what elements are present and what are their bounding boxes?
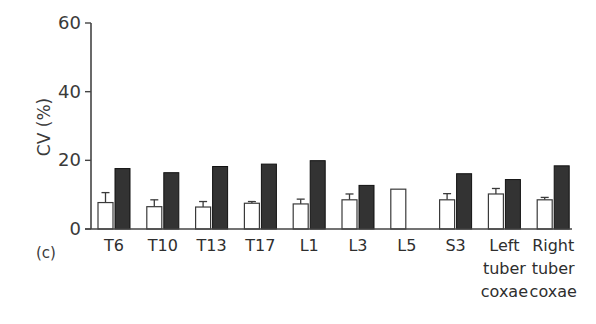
category-label: T10 bbox=[147, 236, 178, 255]
bar-chart: 0204060 T6T10T13T17L1L3L5S3Lefttubercoxa… bbox=[0, 0, 596, 324]
panel-label: (c) bbox=[36, 244, 56, 262]
open-bar bbox=[342, 200, 357, 229]
filled-bar bbox=[457, 174, 472, 229]
category-label: L1 bbox=[300, 236, 319, 255]
open-bar bbox=[391, 189, 406, 229]
category-label: Right bbox=[532, 236, 574, 255]
bar-group bbox=[147, 173, 179, 229]
bar-group bbox=[440, 174, 472, 229]
category-label: S3 bbox=[445, 236, 465, 255]
category-label: T13 bbox=[196, 236, 227, 255]
bar-group bbox=[391, 189, 406, 229]
open-bar bbox=[293, 204, 308, 229]
category-label: coxae bbox=[530, 282, 577, 301]
bar-group bbox=[196, 167, 228, 229]
x-axis: T6T10T13T17L1L3L5S3LefttubercoxaeRighttu… bbox=[85, 229, 577, 301]
filled-bar bbox=[164, 173, 179, 229]
y-tick-label: 40 bbox=[58, 81, 81, 102]
bar-group bbox=[488, 180, 520, 229]
open-bar bbox=[147, 207, 162, 229]
category-label: tuber bbox=[532, 259, 575, 278]
filled-bar bbox=[115, 169, 130, 229]
bar-group bbox=[244, 164, 276, 229]
y-tick-label: 0 bbox=[70, 218, 81, 239]
filled-bar bbox=[554, 166, 569, 229]
filled-bar bbox=[359, 185, 374, 229]
y-tick-label: 60 bbox=[58, 12, 81, 33]
bar-groups bbox=[98, 161, 569, 229]
y-axis: 0204060 bbox=[58, 12, 91, 239]
y-axis-label: CV (%) bbox=[34, 98, 54, 156]
filled-bar bbox=[310, 161, 325, 229]
filled-bar bbox=[213, 167, 228, 229]
category-label: T17 bbox=[244, 236, 275, 255]
category-label: L5 bbox=[397, 236, 416, 255]
open-bar bbox=[196, 207, 211, 229]
filled-bar bbox=[261, 164, 276, 229]
category-label: tuber bbox=[483, 259, 526, 278]
open-bar bbox=[488, 194, 503, 229]
filled-bar bbox=[505, 180, 520, 229]
y-tick-label: 20 bbox=[58, 149, 81, 170]
bar-group bbox=[293, 161, 325, 229]
category-label: T6 bbox=[103, 236, 124, 255]
bar-group bbox=[98, 169, 130, 229]
open-bar bbox=[440, 200, 455, 229]
open-bar bbox=[244, 203, 259, 229]
category-label: coxae bbox=[481, 282, 528, 301]
open-bar bbox=[98, 203, 113, 229]
category-label: L3 bbox=[348, 236, 367, 255]
bar-group bbox=[537, 166, 569, 229]
bar-group bbox=[342, 185, 374, 229]
category-label: Left bbox=[489, 236, 519, 255]
open-bar bbox=[537, 200, 552, 229]
